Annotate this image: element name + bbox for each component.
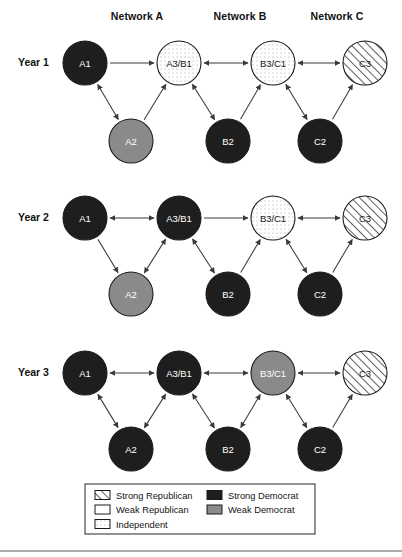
node-label: B2 bbox=[222, 136, 233, 147]
edge-A3-B1-to-A2 bbox=[144, 239, 165, 273]
node-label: B3/C1 bbox=[260, 368, 286, 379]
node-a1-year-3[interactable]: A1 bbox=[63, 351, 107, 395]
edge-B2-to-B3-C1 bbox=[241, 240, 261, 273]
year-label-1: Year 1 bbox=[18, 56, 49, 68]
edge-B2-to-B3-C1 bbox=[241, 395, 261, 428]
node-a3-b1-year-1[interactable]: A3/B1 bbox=[157, 41, 201, 85]
legend-item-weak-democrat: Weak Democrat bbox=[207, 505, 295, 515]
legend-label: Weak Democrat bbox=[228, 505, 295, 515]
legend: Strong RepublicanWeak RepublicanIndepend… bbox=[85, 484, 315, 534]
node-c3-year-3[interactable]: C3 bbox=[343, 351, 387, 395]
node-a1-year-1[interactable]: A1 bbox=[63, 41, 107, 85]
node-label: C2 bbox=[314, 289, 326, 300]
node-b3-c1-year-1[interactable]: B3/C1 bbox=[251, 41, 295, 85]
node-label: B3/C1 bbox=[260, 213, 286, 224]
node-label: C3 bbox=[359, 213, 371, 224]
node-a3-b1-year-2[interactable]: A3/B1 bbox=[157, 196, 201, 240]
legend-label: Weak Republican bbox=[116, 505, 189, 515]
node-label: B2 bbox=[222, 444, 233, 455]
node-label: C3 bbox=[359, 58, 371, 69]
node-b3-c1-year-3[interactable]: B3/C1 bbox=[251, 351, 295, 395]
network-labels-group: Network ANetwork BNetwork C bbox=[111, 10, 364, 22]
node-label: A1 bbox=[79, 58, 90, 69]
node-c2-year-1[interactable]: C2 bbox=[298, 119, 342, 163]
year-labels-group: Year 1Year 2Year 3 bbox=[18, 56, 49, 378]
edges-layer bbox=[98, 63, 353, 428]
node-label: B3/C1 bbox=[260, 58, 286, 69]
node-a2-year-3[interactable]: A2 bbox=[109, 427, 153, 471]
node-b2-year-3[interactable]: B2 bbox=[206, 427, 250, 471]
node-label: C2 bbox=[314, 444, 326, 455]
node-a3-b1-year-3[interactable]: A3/B1 bbox=[157, 351, 201, 395]
node-label: C2 bbox=[314, 136, 326, 147]
edge-C2-to-C3 bbox=[333, 395, 353, 428]
edge-B2-to-B3-C1 bbox=[240, 85, 260, 120]
node-a2-year-1[interactable]: A2 bbox=[109, 119, 153, 163]
node-label: C3 bbox=[359, 368, 371, 379]
node-c2-year-2[interactable]: C2 bbox=[298, 272, 342, 316]
node-label: A2 bbox=[125, 444, 136, 455]
node-label: A3/B1 bbox=[166, 213, 191, 224]
legend-item-independent: Independent bbox=[95, 520, 168, 530]
network-label-c: Network C bbox=[311, 10, 364, 22]
node-label: A1 bbox=[79, 213, 90, 224]
legend-label: Independent bbox=[116, 520, 168, 530]
node-c3-year-1[interactable]: C3 bbox=[343, 41, 387, 85]
node-b3-c1-year-2[interactable]: B3/C1 bbox=[251, 196, 295, 240]
node-label: B2 bbox=[222, 289, 233, 300]
edge-A2-to-A3-B1 bbox=[144, 84, 166, 119]
legend-swatch bbox=[207, 505, 222, 514]
network-diagram: Network ANetwork BNetwork C Year 1Year 2… bbox=[0, 0, 402, 557]
node-a2-year-2[interactable]: A2 bbox=[109, 272, 153, 316]
node-b2-year-1[interactable]: B2 bbox=[206, 119, 250, 163]
edge-C2-to-C3 bbox=[333, 240, 353, 273]
legend-swatch bbox=[95, 505, 110, 514]
node-label: A1 bbox=[79, 368, 90, 379]
legend-label: Strong Democrat bbox=[228, 491, 299, 501]
nodes-layer: A1A3/B1B3/C1C3A2B2C2A1A3/B1B3/C1C3A2B2C2… bbox=[63, 41, 387, 471]
network-label-a: Network A bbox=[111, 10, 164, 22]
edge-B3-C1-to-C2 bbox=[286, 239, 307, 272]
edge-A1-to-A2 bbox=[98, 239, 118, 272]
node-label: A3/B1 bbox=[166, 368, 191, 379]
legend-item-strong-republican: Strong Republican bbox=[95, 491, 193, 501]
year-label-3: Year 3 bbox=[18, 366, 49, 378]
legend-swatch bbox=[95, 491, 110, 500]
edge-A3-B1-to-B2 bbox=[193, 394, 215, 428]
legend-item-weak-republican: Weak Republican bbox=[95, 505, 189, 515]
node-label: A3/B1 bbox=[166, 58, 191, 69]
edge-A1-to-A2 bbox=[98, 85, 119, 120]
edge-B2-to-A3-B1 bbox=[193, 239, 215, 273]
node-label: A2 bbox=[125, 289, 136, 300]
node-label: A2 bbox=[125, 136, 136, 147]
edge-A2-to-A3-B1 bbox=[144, 394, 165, 428]
edge-B3-C1-to-C2 bbox=[286, 84, 307, 119]
edge-B3-C1-to-C2 bbox=[286, 394, 307, 427]
edge-A3-B1-to-B2 bbox=[192, 84, 214, 120]
network-label-b: Network B bbox=[214, 10, 267, 22]
node-a1-year-2[interactable]: A1 bbox=[63, 196, 107, 240]
figure-canvas: Network ANetwork BNetwork C Year 1Year 2… bbox=[0, 0, 402, 557]
edge-C2-to-C3 bbox=[332, 85, 352, 120]
legend-label: Strong Republican bbox=[116, 491, 193, 501]
node-c3-year-2[interactable]: C3 bbox=[343, 196, 387, 240]
legend-item-strong-democrat: Strong Democrat bbox=[207, 491, 299, 501]
legend-swatch bbox=[95, 520, 110, 529]
node-c2-year-3[interactable]: C2 bbox=[298, 427, 342, 471]
node-b2-year-2[interactable]: B2 bbox=[206, 272, 250, 316]
year-label-2: Year 2 bbox=[18, 211, 49, 223]
legend-swatch bbox=[207, 491, 222, 500]
edge-A1-to-A2 bbox=[98, 394, 118, 427]
